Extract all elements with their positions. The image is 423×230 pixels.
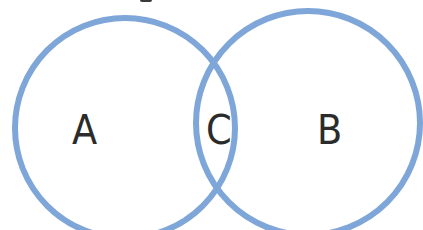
label-a: A (72, 110, 97, 150)
label-c: C (206, 110, 232, 150)
label-b: B (317, 110, 342, 150)
venn-diagram: A C B (0, 0, 423, 230)
circle-a (15, 18, 235, 230)
